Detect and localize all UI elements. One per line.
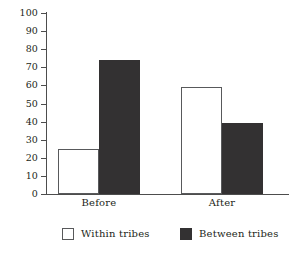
plot-area [46,13,288,194]
y-axis-tick-label: 60 [8,80,38,90]
filled-square-swatch [180,228,192,240]
y-axis-tick-label: 40 [8,117,38,127]
y-axis-tick-mark [41,194,46,195]
legend-item-within: Within tribes [62,226,150,242]
chart-legend: Within tribesBetween tribes [0,226,296,246]
y-axis-tick-label: 10 [8,171,38,181]
bar-after-between [222,123,263,194]
x-axis-label-before: Before [59,197,139,209]
y-axis-tick-label: 80 [8,44,38,54]
y-axis-tick-label: 0 [8,189,38,199]
legend-item-between: Between tribes [180,226,279,242]
bar-chart: 1009080706050403020100 BeforeAfter Withi… [0,0,296,255]
open-square-swatch [62,228,74,240]
legend-label: Within tribes [81,228,150,240]
bar-before-within [58,149,99,194]
y-axis-tick-label: 20 [8,153,38,163]
y-axis-tick-label: 50 [8,99,38,109]
y-axis-tick-label: 70 [8,62,38,72]
y-axis-tick-label: 100 [8,8,38,18]
x-axis-line [46,194,289,195]
x-axis-label-after: After [182,197,262,209]
y-axis-tick-label: 90 [8,26,38,36]
bar-after-within [181,87,222,194]
legend-label: Between tribes [199,228,279,240]
bar-before-between [99,60,140,194]
y-axis-tick-label: 30 [8,135,38,145]
